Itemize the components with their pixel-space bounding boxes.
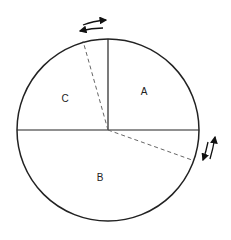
side-arrow-down <box>203 142 208 160</box>
dashed-radius-upper <box>83 41 108 130</box>
dashed-radius-right <box>108 130 192 160</box>
top-arrow-left <box>80 28 103 31</box>
region-label-c: C <box>61 93 68 104</box>
circle-diagram <box>0 0 231 240</box>
region-label-b: B <box>97 172 104 183</box>
side-arrow-up <box>210 137 215 159</box>
region-label-a: A <box>141 86 148 97</box>
top-arrow-right <box>83 20 106 25</box>
